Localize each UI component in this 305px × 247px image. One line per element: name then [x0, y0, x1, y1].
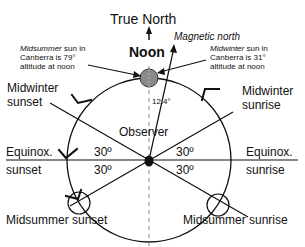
midwinter-sunset-label-2: sunset — [7, 95, 43, 109]
midwinter-sunrise-label-2: sunrise — [242, 98, 281, 112]
midwinter-note-line1: Midwinter sun in — [210, 44, 268, 53]
angle-right-lower: 30º — [176, 163, 194, 177]
midsummer-note-line1: Midsummer sun in — [20, 44, 85, 53]
midsummer-sunrise-label: Midsummer sunrise — [183, 213, 288, 227]
magnetic-north-arrow-icon — [170, 44, 177, 53]
observer-dot — [145, 156, 154, 167]
magnetic-north-label: Magnetic north — [174, 31, 241, 42]
midsummer-note-line3: altitude at noon — [20, 62, 75, 71]
midwinter-sunrise-label-1: Midwinter — [242, 84, 293, 98]
equinox-sunset-label-2: sunset — [6, 163, 42, 177]
angle-right-upper: 30º — [176, 145, 194, 159]
observer-label: Observer — [119, 125, 168, 139]
magnetic-north-line — [149, 52, 173, 160]
midwinter-note-line2: Canberra is 31° — [210, 53, 266, 62]
midsummer-note-line2: Canberra is 79° — [20, 53, 76, 62]
equinox-sunrise-label-2: sunrise — [246, 163, 285, 177]
true-north-label: True North — [110, 11, 176, 27]
angle-left-lower: 30º — [94, 163, 112, 177]
midsummer-sunset-label: Midsummer sunset — [6, 213, 108, 227]
midwinter-sunset-chevron-icon — [72, 95, 91, 103]
equinox-sunset-label-1: Equinox. — [6, 145, 53, 159]
declination-label: 12.4° — [152, 97, 171, 106]
true-north-arrow-icon — [146, 26, 152, 34]
midwinter-pointer-arrow-icon — [157, 68, 165, 75]
midwinter-note-line3: altitude at noon — [210, 62, 265, 71]
noon-label: Noon — [129, 44, 165, 60]
midwinter-sunrise-chevron-icon — [202, 89, 219, 100]
midwinter-sunset-label-1: Midwinter — [7, 81, 58, 95]
equinox-sunrise-label-1: Equinox. — [246, 145, 293, 159]
midsummer-pointer-line — [88, 65, 141, 76]
sun-path-diagram: True North Noon Magnetic north 12.4° Mid… — [0, 0, 305, 247]
midwinter-pointer-line — [160, 60, 206, 72]
angle-left-upper: 30º — [94, 145, 112, 159]
